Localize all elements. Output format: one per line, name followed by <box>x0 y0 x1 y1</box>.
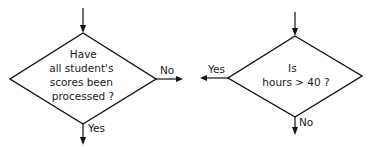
decision-all-scores-processed: Have all student's scores been processed… <box>10 8 183 145</box>
flowchart-canvas: Have all student's scores been processed… <box>0 0 371 147</box>
arrowhead-right-icon <box>176 76 183 82</box>
yes-branch-label: Yes <box>87 122 105 134</box>
decision-text: Is hours > 40 ? <box>262 62 329 88</box>
arrowhead-down-icon <box>80 137 86 145</box>
arrowhead-down-icon <box>292 28 298 36</box>
decision-hours-over-40: Is hours > 40 ? Yes No <box>200 12 362 135</box>
no-branch-label: No <box>160 64 174 76</box>
decision-text: Have all student's scores been processed… <box>49 48 116 102</box>
no-branch-label: No <box>299 116 313 128</box>
yes-branch-label: Yes <box>207 63 225 75</box>
arrowhead-left-icon <box>200 75 207 81</box>
arrowhead-down-icon <box>292 127 298 135</box>
arrowhead-down-icon <box>80 25 86 33</box>
